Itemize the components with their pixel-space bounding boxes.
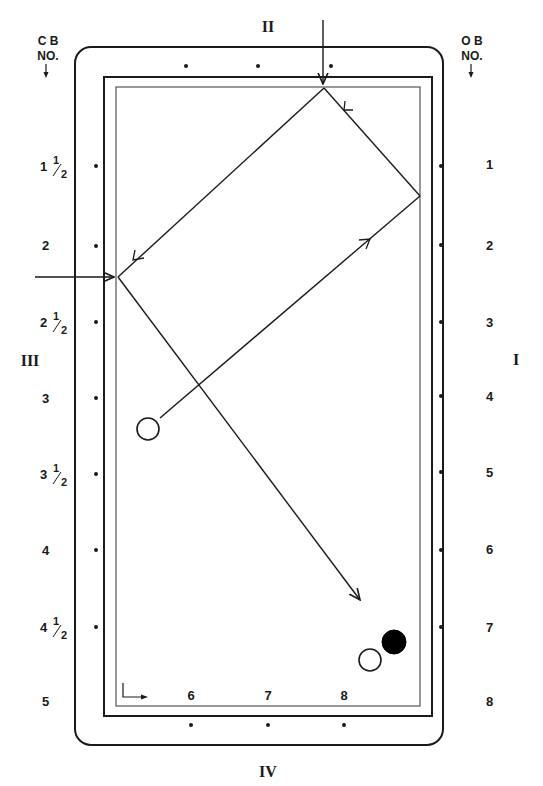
billiards-diagram: C B NO. O B NO. II I III IV xyxy=(0,0,543,786)
bottom-number-6: 6 xyxy=(187,688,194,703)
svg-text:2: 2 xyxy=(61,476,67,488)
diamond-marker xyxy=(439,243,443,247)
svg-text:1: 1 xyxy=(40,159,47,174)
rail-label-right: I xyxy=(513,351,519,368)
diamond-marker xyxy=(94,548,98,552)
svg-text:2: 2 xyxy=(61,324,67,336)
direction-arrows xyxy=(133,101,370,260)
down-arrow-icon xyxy=(44,64,49,78)
diamond-marker xyxy=(94,472,98,476)
svg-text:1: 1 xyxy=(53,615,59,627)
diamond-marker xyxy=(94,244,98,248)
bottom-number-7: 7 xyxy=(264,688,271,703)
object-ball-number-header: O B NO. xyxy=(461,34,483,78)
cb-number-2: 2 xyxy=(42,238,49,253)
diamonds-top xyxy=(184,64,333,68)
diamond-marker xyxy=(94,396,98,400)
ob-number-2: 2 xyxy=(486,238,493,253)
svg-text:2: 2 xyxy=(61,629,67,641)
diamonds-bottom xyxy=(189,723,346,727)
ob-number-5: 5 xyxy=(486,465,493,480)
rail-label-top: II xyxy=(262,18,274,35)
header-no-text: NO. xyxy=(37,49,58,63)
diamonds-left xyxy=(94,164,98,629)
diamond-marker xyxy=(189,723,193,727)
cb-number-4: 4 xyxy=(42,543,50,558)
cb-number-3: 3 xyxy=(42,391,49,406)
diamond-marker xyxy=(94,164,98,168)
svg-text:1: 1 xyxy=(53,462,59,474)
diamond-marker xyxy=(439,394,443,398)
cb-number-2-half: 2 1 2 xyxy=(40,310,67,336)
ob-number-8: 8 xyxy=(486,694,493,709)
ob-number-7: 7 xyxy=(486,620,493,635)
rail-label-left: III xyxy=(21,352,40,369)
object-ball-numbers: 1 2 3 4 5 6 7 8 xyxy=(486,157,494,709)
svg-text:2: 2 xyxy=(61,168,67,180)
table-rail-edge xyxy=(104,77,432,716)
ob-number-1: 1 xyxy=(486,157,493,172)
cb-number-4-half: 4 1 2 xyxy=(40,615,67,641)
cb-number-5: 5 xyxy=(42,694,49,709)
down-arrow-icon xyxy=(469,64,474,78)
rail-label-bottom: IV xyxy=(259,763,277,780)
bottom-number-8: 8 xyxy=(340,688,347,703)
diamond-marker xyxy=(342,723,346,727)
table-cushion-line xyxy=(116,87,420,706)
diamond-marker xyxy=(266,723,270,727)
ob-number-6: 6 xyxy=(486,542,493,557)
black-object-ball xyxy=(382,630,406,654)
svg-text:2: 2 xyxy=(40,315,47,330)
cue-ball xyxy=(137,418,159,440)
ball-path xyxy=(118,88,420,600)
cb-number-1-half: 1 1 2 xyxy=(40,154,67,180)
diamond-marker xyxy=(94,320,98,324)
header-no-text: NO. xyxy=(461,49,482,63)
cue-ball-number-header: C B NO. xyxy=(37,34,58,78)
corner-origin-arrow-icon xyxy=(123,683,148,700)
cue-ball-numbers: 1 1 2 2 2 1 2 3 3 1 2 4 4 1 2 5 xyxy=(40,154,67,709)
svg-text:4: 4 xyxy=(40,620,48,635)
bottom-rail-numbers: 6 7 8 xyxy=(187,688,347,703)
diamond-marker xyxy=(439,625,443,629)
ob-number-4: 4 xyxy=(486,389,494,404)
header-cb-text: C B xyxy=(38,34,59,48)
header-ob-text: O B xyxy=(461,34,483,48)
path-leg-3 xyxy=(118,88,324,277)
svg-text:1: 1 xyxy=(53,310,59,322)
svg-text:3: 3 xyxy=(40,467,47,482)
direction-arrow-icon xyxy=(344,101,353,110)
white-object-ball xyxy=(359,649,381,671)
diamond-marker xyxy=(439,164,443,168)
ob-number-3: 3 xyxy=(486,315,493,330)
diamond-marker xyxy=(439,470,443,474)
diamond-marker xyxy=(439,548,443,552)
path-leg-2 xyxy=(324,88,420,196)
diamond-marker xyxy=(256,64,260,68)
diamond-marker xyxy=(439,320,443,324)
svg-text:1: 1 xyxy=(53,154,59,166)
diamond-marker xyxy=(329,64,333,68)
cb-number-3-half: 3 1 2 xyxy=(40,462,67,488)
diamond-marker xyxy=(94,625,98,629)
diamond-marker xyxy=(184,64,188,68)
